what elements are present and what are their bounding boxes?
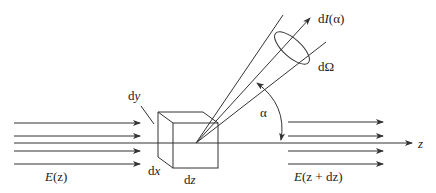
volume-element-cube	[158, 112, 218, 168]
scattering-cone	[196, 15, 326, 143]
solid-angle-ellipse	[270, 27, 315, 70]
scattering-diagram: E(z) dy dx dz dI(α) dΩ α z E(z + dz)	[0, 0, 436, 193]
dy-leader-line	[141, 106, 154, 124]
label-solid-angle: dΩ	[318, 59, 334, 74]
label-scattered-intensity: dI(α)	[318, 11, 344, 26]
label-incident-field: E(z)	[44, 169, 67, 184]
label-dy: dy	[128, 88, 141, 103]
label-transmitted-field: E(z + dz)	[293, 169, 342, 184]
label-alpha: α	[260, 105, 267, 120]
label-dz: dz	[184, 172, 196, 187]
label-dx: dx	[148, 163, 161, 178]
label-z-axis: z	[417, 136, 423, 151]
